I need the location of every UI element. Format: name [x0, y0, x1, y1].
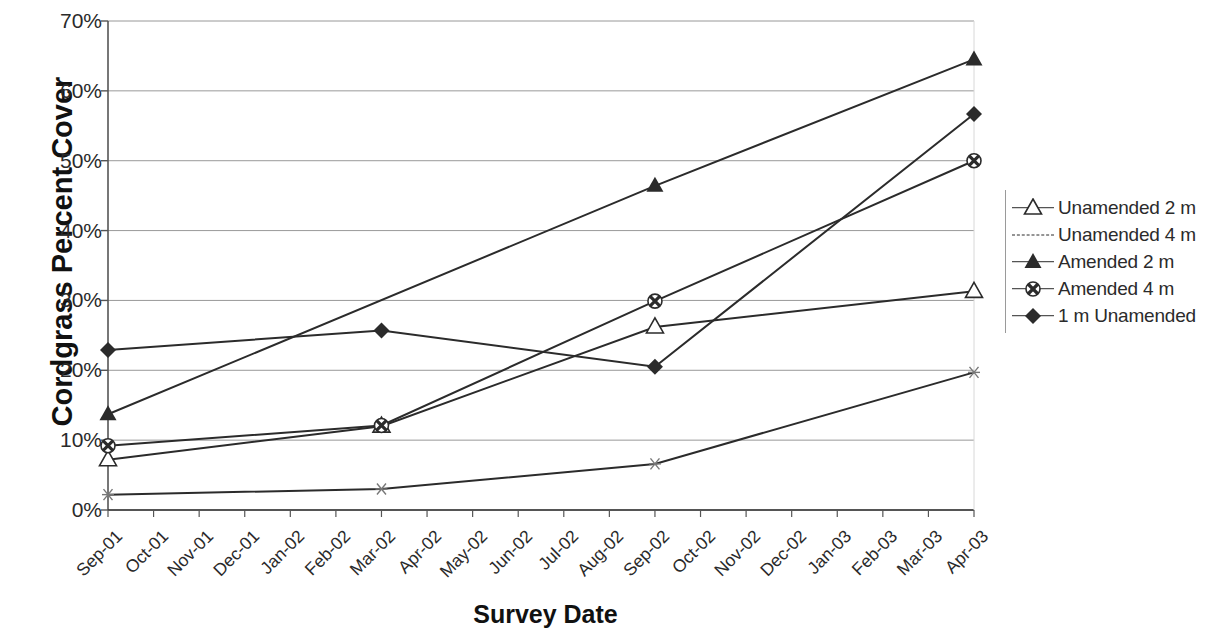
legend-item-2[interactable]: Unamended 4 m	[1012, 221, 1231, 248]
legend-item-3[interactable]: Amended 2 m	[1012, 248, 1231, 275]
data-point-marker	[649, 458, 661, 469]
y-tick-label: 50%	[32, 149, 102, 173]
legend-swatch	[1012, 307, 1054, 325]
series-line	[108, 114, 974, 367]
data-point-marker	[374, 418, 388, 432]
filled-triangle-icon	[1023, 252, 1043, 272]
legend-swatch	[1012, 199, 1054, 217]
data-point-marker	[966, 50, 983, 65]
data-point-marker	[1025, 308, 1041, 324]
data-point-marker	[967, 154, 981, 168]
y-tick-label: 10%	[32, 428, 102, 452]
y-tick-label: 30%	[32, 288, 102, 312]
open-triangle-icon	[1023, 198, 1043, 218]
cordgrass-percent-cover-chart: Cordgrass Percent Cover 0%10%20%30%40%50…	[0, 0, 1231, 639]
legend-item-4[interactable]: Amended 4 m	[1012, 275, 1231, 302]
series-line	[108, 59, 974, 414]
data-point-marker	[373, 322, 389, 338]
data-point-marker	[1025, 253, 1042, 268]
legend-item-1[interactable]: Unamended 2 m	[1012, 194, 1231, 221]
legend-label: Unamended 4 m	[1058, 224, 1196, 246]
series-3	[100, 50, 983, 420]
x-axis-title-text: Survey Date	[473, 600, 618, 628]
legend: Unamended 2 mUnamended 4 mAmended 2 mAme…	[1005, 190, 1231, 333]
series-2	[102, 367, 980, 500]
data-point-marker	[966, 282, 983, 297]
series-1	[100, 282, 983, 465]
legend-swatch	[1012, 253, 1054, 271]
data-point-marker	[100, 342, 116, 358]
circle-x-icon	[1023, 279, 1043, 299]
data-point-marker	[1025, 199, 1042, 214]
data-point-marker	[375, 484, 387, 495]
legend-label: 1 m Unamended	[1058, 305, 1196, 327]
legend-item-5[interactable]: 1 m Unamended	[1012, 302, 1231, 329]
legend-label: Amended 4 m	[1058, 278, 1174, 300]
y-tick-label: 40%	[32, 219, 102, 243]
legend-label: Amended 2 m	[1058, 251, 1174, 273]
y-tick-label: 60%	[32, 79, 102, 103]
y-tick-label: 20%	[32, 358, 102, 382]
y-tick-label: 70%	[32, 9, 102, 33]
legend-swatch	[1012, 226, 1054, 244]
y-tick-label: 0%	[32, 498, 102, 522]
data-point-marker	[1026, 282, 1040, 296]
y-axis-tick-labels: 0%10%20%30%40%50%60%70%	[30, 0, 102, 639]
series-line	[108, 161, 974, 446]
series-5	[100, 106, 982, 375]
data-point-marker	[648, 294, 662, 308]
legend-line	[1012, 234, 1054, 235]
legend-label: Unamended 2 m	[1058, 197, 1196, 219]
x-axis-title: Survey Date	[0, 600, 1231, 629]
series-line	[108, 372, 974, 494]
data-point-marker	[101, 439, 115, 453]
series-line	[108, 291, 974, 459]
legend-swatch	[1012, 280, 1054, 298]
filled-diamond-icon	[1023, 306, 1043, 326]
